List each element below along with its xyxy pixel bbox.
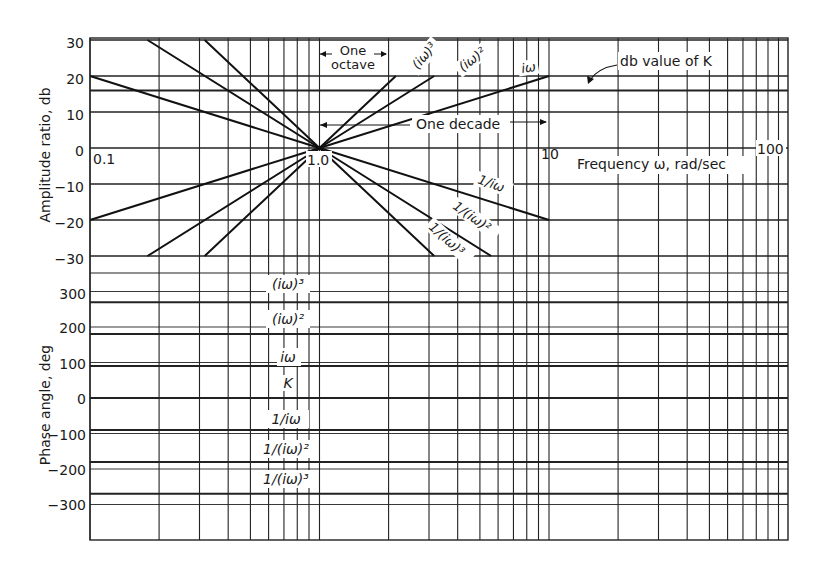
label-inv-iw3: 1/(iω)³ [426, 219, 468, 259]
x-tick: 10 [541, 146, 559, 162]
phase-tick: 300 [59, 286, 86, 302]
phase-label: 1/iω [271, 411, 301, 427]
amplitude-axis-title: Amplitude ratio, db [37, 87, 53, 222]
x-tick: 1.0 [307, 152, 329, 168]
octave-annotation: One octave [320, 42, 387, 72]
db-k-annotation: db value of K [587, 52, 716, 84]
label-inv-iw2: 1/(iω)² [450, 198, 493, 235]
amp-tick: 0 [75, 143, 84, 159]
phase-tick: 0 [77, 391, 86, 407]
bode-chart: 30 20 10 0 −10 −20 −30 300 200 100 0 −10… [0, 0, 816, 565]
phase-tick: −200 [48, 462, 86, 478]
x-tick: 0.1 [93, 151, 115, 167]
phase-tick: 200 [59, 320, 86, 336]
phase-axis-title: Phase angle, deg [37, 345, 53, 465]
phase-y-ticks: 300 200 100 0 −100 −200 −300 [48, 286, 86, 513]
amp-tick: −10 [54, 179, 84, 195]
amp-tick: −30 [54, 251, 84, 267]
phase-tick: −300 [48, 497, 86, 513]
svg-text:db value of K: db value of K [620, 53, 713, 69]
x-tick: 100 [757, 141, 784, 157]
phase-label: iω [280, 349, 296, 365]
vertical-grid [90, 38, 779, 540]
phase-label: 1/(iω)³ [263, 471, 309, 487]
phase-curve-labels: (iω)³ (iω)² iω K 1/iω 1/(iω)² 1/(iω)³ [255, 275, 317, 488]
x-axis-title: Frequency ω, rad/sec [577, 156, 726, 172]
label-inv-iw: 1/iω [476, 172, 507, 195]
svg-text:octave: octave [331, 57, 375, 72]
phase-label: 1/(iω)² [263, 441, 309, 457]
amplitude-curve-labels: (iω)³ (iω)² iω 1/iω 1/(iω)² 1/(iω)³ [406, 36, 539, 265]
phase-tick: −100 [48, 427, 86, 443]
phase-label: (iω)³ [272, 276, 305, 292]
amp-tick: 20 [66, 71, 84, 87]
amplitude-curve [205, 76, 396, 256]
amp-tick: −20 [54, 215, 84, 231]
phase-label: (iω)² [272, 311, 305, 327]
label-iw: iω [520, 59, 537, 76]
plot-frame [90, 38, 788, 540]
amplitude-curve [148, 76, 435, 256]
phase-tick: 100 [59, 356, 86, 372]
amp-tick: 30 [66, 35, 84, 51]
svg-text:One decade: One decade [416, 116, 500, 132]
amp-tick: 10 [66, 107, 84, 123]
svg-text:One: One [340, 43, 366, 58]
amplitude-y-ticks: 30 20 10 0 −10 −20 −30 [54, 35, 84, 267]
